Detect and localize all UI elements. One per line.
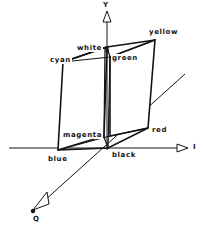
- vertex-label-green: green: [111, 54, 139, 62]
- y-axis-arrowhead-icon: [103, 11, 111, 22]
- q-axis-tip-dot-icon: [31, 209, 35, 213]
- vertex-label-cyan: cyan: [49, 56, 72, 64]
- i-axis-arrowhead-icon: [177, 144, 188, 152]
- vertex-label-red: red: [151, 126, 168, 134]
- vertex-label-blue: blue: [47, 155, 69, 163]
- vertex-label-white: white: [76, 44, 103, 52]
- yiq-color-cube-figure: yellow white green cyan red magenta blac…: [0, 0, 204, 228]
- axis-label-q: Q: [33, 215, 39, 223]
- axis-label-y: Y: [103, 1, 108, 9]
- vertex-label-yellow: yellow: [148, 28, 179, 36]
- vertex-label-magenta: magenta: [62, 131, 103, 139]
- q-axis-arrowhead-icon: [33, 192, 49, 210]
- axis-label-i: I: [193, 143, 196, 151]
- vertex-label-black: black: [111, 151, 137, 159]
